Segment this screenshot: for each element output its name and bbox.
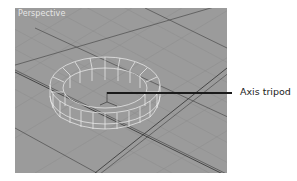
callout-leader-line <box>107 92 232 94</box>
callout-label-axis-tripod: Axis tripod <box>240 86 291 98</box>
grid-major <box>15 8 227 173</box>
perspective-viewport[interactable]: Perspective <box>15 8 227 173</box>
viewport-scene <box>15 8 227 173</box>
viewport-label[interactable]: Perspective <box>18 9 65 19</box>
